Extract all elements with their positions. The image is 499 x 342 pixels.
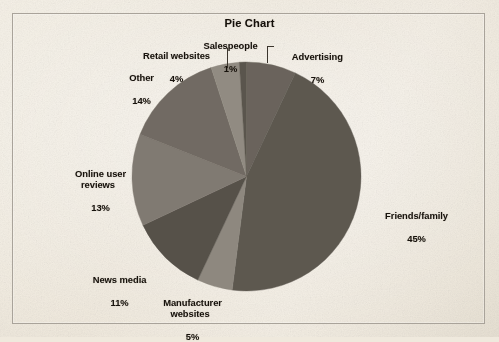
slice-label-advertising-percent: 7%: [311, 74, 324, 85]
slice-label-online-user-reviews-percent: 13%: [91, 202, 110, 213]
slice-label-other-name: Other: [129, 72, 154, 83]
slice-label-manufacturer-websites-name: Manufacturer websites: [163, 297, 222, 319]
slice-label-friends-family: Friends/family 45%: [366, 199, 462, 244]
slice-label-online-user-reviews: Online user reviews 13%: [51, 157, 145, 213]
slice-label-salespeople-percent: 1%: [224, 63, 237, 74]
slice-label-manufacturer-websites: Manufacturer websites 5%: [146, 286, 234, 342]
chart-title: Pie Chart: [0, 17, 499, 29]
slice-label-manufacturer-websites-percent: 5%: [186, 331, 199, 342]
slice-label-friends-family-percent: 45%: [407, 233, 426, 244]
slice-label-advertising-name: Advertising: [292, 51, 343, 62]
slice-label-other: Other 14%: [106, 61, 172, 106]
slice-label-friends-family-name: Friends/family: [385, 210, 448, 221]
slice-label-retail-websites-name: Retail websites: [143, 50, 210, 61]
slice-label-other-percent: 14%: [132, 95, 151, 106]
slice-label-online-user-reviews-name: Online user reviews: [75, 168, 126, 190]
slice-label-advertising: Advertising 7%: [262, 40, 368, 85]
slice-label-news-media-percent: 11%: [111, 297, 129, 308]
slice-label-news-media-name: News media: [93, 274, 147, 285]
